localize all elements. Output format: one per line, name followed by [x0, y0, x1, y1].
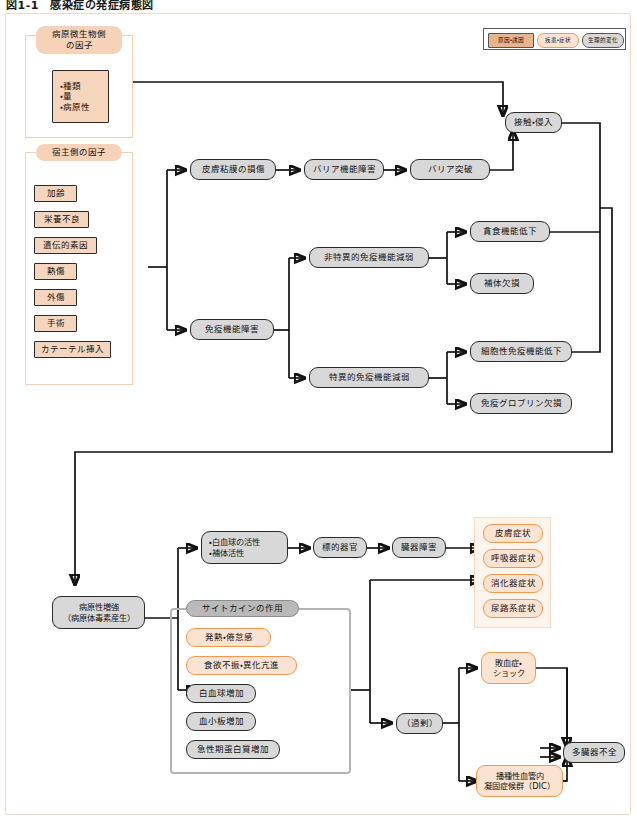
node-multiple-organ-failure: 多臓器不全: [563, 742, 625, 763]
group-cytokine-effects-title: サイトカインの作用: [186, 600, 299, 617]
cytokine-item-fever-malaise: 発熱・倦怠感: [186, 628, 271, 647]
node-specific-immunity-decline: 特異的免疫機能減弱: [309, 367, 429, 388]
node-immunoglobulin-deficiency: 免疫グロブリン欠損: [470, 393, 572, 414]
symptom-digestive: 消化器症状: [483, 574, 543, 593]
host-factor-catheter-insertion: カテーテル挿入: [34, 341, 111, 358]
node-skin-mucosa-damage: 皮膚粘膜の損傷: [190, 159, 276, 180]
host-factor-burn: 熱傷: [34, 263, 77, 280]
node-nonspecific-immunity-decline: 非特異的免疫機能減弱: [309, 247, 429, 268]
node-immune-dysfunction: 免疫機能障害: [190, 319, 274, 340]
figure-canvas: 図1-1 感染症の発症病態図 原因・誘因 疾患・症状 生理的変化: [0, 0, 637, 823]
node-barrier-breach: バリア突破: [410, 159, 490, 180]
symptom-urinary: 尿路系症状: [483, 599, 543, 618]
host-factor-aging: 加齢: [34, 185, 77, 202]
host-factor-genetic-predisposition: 遺伝的素因: [34, 237, 97, 254]
host-factor-malnutrition: 栄養不良: [34, 211, 89, 228]
host-factor-surgery: 手術: [34, 315, 77, 332]
symptom-respiratory: 呼吸器症状: [483, 549, 543, 568]
node-barrier-dysfunction: バリア機能障害: [304, 159, 384, 180]
group-host-factors-title: 宿主側の因子: [36, 144, 122, 161]
group-pathogen-factors-title: 病原微生物側 の因子: [36, 26, 122, 54]
node-excess: （過剰）: [396, 713, 443, 734]
node-leukocyte-complement-activation: ・白血球の活性 ・補体活性: [201, 531, 288, 564]
node-cellular-immunity-decline: 細胞性免疫機能低下: [470, 341, 572, 362]
node-phagocytosis-decline: 貪食機能低下: [470, 221, 550, 242]
host-factor-trauma: 外傷: [34, 289, 77, 306]
symptom-skin: 皮膚症状: [483, 524, 543, 543]
node-dic: 播種性血管内 凝固症候群（DIC）: [476, 765, 563, 797]
node-organ-damage: 臓器障害: [392, 537, 446, 558]
pathogen-factor-list: ・種類 ・量 ・病原性: [52, 70, 109, 123]
node-target-organ: 標的器官: [313, 537, 367, 558]
cytokine-item-thrombocytosis: 血小板増加: [186, 712, 256, 731]
node-sepsis-shock: 敗血症・ ショック: [481, 652, 536, 684]
node-contact-invasion: 接触・侵入: [505, 112, 562, 133]
cytokine-item-anorexia-catabolism: 食欲不振・異化亢進: [186, 656, 297, 675]
cytokine-item-leukocytosis: 白血球増加: [186, 684, 256, 703]
node-complement-deficiency: 補体欠損: [470, 273, 534, 294]
cytokine-item-acute-phase-protein: 急性期蛋白質増加: [186, 740, 280, 759]
node-pathogenicity-enhancement: 病原性増強 （病原体毒素産生）: [52, 596, 145, 629]
